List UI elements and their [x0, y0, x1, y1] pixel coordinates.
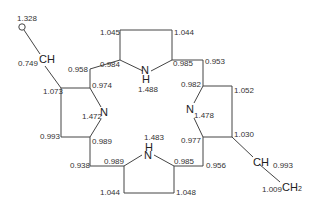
label-bottom-left-corner: 0.938 — [70, 162, 90, 170]
atom-h-top: H — [142, 74, 150, 85]
label-top-pyrrole-left-alpha: 0.984 — [100, 61, 120, 69]
atom-ch2: CH2 — [282, 182, 302, 193]
label-right-ring-top: 1.052 — [234, 87, 254, 95]
atom-ch-left: CH — [39, 54, 55, 65]
label-top-right-corner: 0.953 — [205, 58, 225, 66]
atom-ch-right: CH — [253, 157, 269, 168]
label-left-ring-bottom: 0.993 — [40, 133, 60, 141]
label-top-pyrrole-right-outer: 1.044 — [174, 29, 194, 37]
oxygen-value: 1.328 — [17, 15, 37, 23]
label-left-ring-alpha-bottom: 0.989 — [92, 138, 112, 146]
ch-left-value: 0.749 — [18, 60, 38, 68]
structure-bonds — [0, 0, 312, 206]
label-bottom-pyrrole-left-outer: 1.044 — [100, 189, 120, 197]
atom-n-right: N — [186, 104, 194, 115]
label-right-ring-alpha-bottom: 0.977 — [181, 137, 201, 145]
label-right-ring-bottom: 1.030 — [234, 131, 254, 139]
label-left-ring-top: 1.073 — [43, 88, 63, 96]
label-right-ring-alpha-top: 0.982 — [181, 81, 201, 89]
atom-n-bottom: N — [144, 150, 152, 161]
label-bottom-pyrrole-right-outer: 1.048 — [176, 189, 196, 197]
ch-right-value: 0.993 — [273, 162, 293, 170]
label-top-left-corner: 0.958 — [68, 66, 88, 74]
label-top-pyrrole-right-alpha: 0.985 — [173, 60, 193, 68]
ch2-c: CH — [282, 181, 298, 193]
label-left-ring-alpha-top: 0.974 — [92, 82, 112, 90]
label-bottom-right-corner: 0.956 — [206, 162, 226, 170]
n-right-value: 1.478 — [194, 112, 214, 120]
label-top-pyrrole-left-outer: 1.045 — [100, 29, 120, 37]
label-bottom-pyrrole-left-alpha: 0.989 — [104, 158, 124, 166]
oxygen-ring — [19, 24, 25, 30]
ch2-value: 1.009 — [262, 186, 282, 194]
n-left-value: 1.472 — [82, 113, 102, 121]
ch2-subscript: 2 — [298, 185, 302, 192]
label-bottom-pyrrole-right-alpha: 0.985 — [174, 158, 194, 166]
top-nh-value: 1.488 — [138, 86, 158, 94]
